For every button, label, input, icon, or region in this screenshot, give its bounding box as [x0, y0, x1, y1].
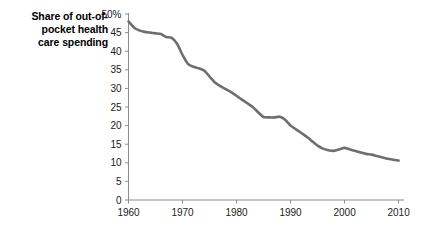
- y-tick-label: 40: [110, 46, 122, 57]
- data-series-line: [129, 21, 399, 160]
- y-axis-ticks: 05101520253035404550%: [101, 9, 128, 206]
- y-tick-label: 30: [110, 83, 122, 94]
- chart-figure: Share of out-of- pocket health care spen…: [0, 0, 431, 241]
- y-tick-label: 45: [110, 27, 122, 38]
- x-axis-ticks: 196019701980199020002010: [117, 200, 410, 218]
- y-tick-label: 25: [110, 102, 122, 113]
- x-tick-label: 2000: [333, 207, 356, 218]
- x-tick-label: 2010: [387, 207, 410, 218]
- x-tick-label: 1970: [171, 207, 194, 218]
- y-tick-label: 50%: [101, 9, 121, 20]
- x-tick-label: 1990: [279, 207, 302, 218]
- x-tick-label: 1960: [117, 207, 140, 218]
- y-tick-label: 20: [110, 120, 122, 131]
- line-chart-plot: 05101520253035404550% 196019701980199020…: [0, 0, 431, 241]
- y-tick-label: 15: [110, 139, 122, 150]
- y-tick-label: 5: [116, 176, 122, 187]
- x-tick-label: 1980: [225, 207, 248, 218]
- y-tick-label: 0: [116, 195, 122, 206]
- y-tick-label: 35: [110, 64, 122, 75]
- y-tick-label: 10: [110, 157, 122, 168]
